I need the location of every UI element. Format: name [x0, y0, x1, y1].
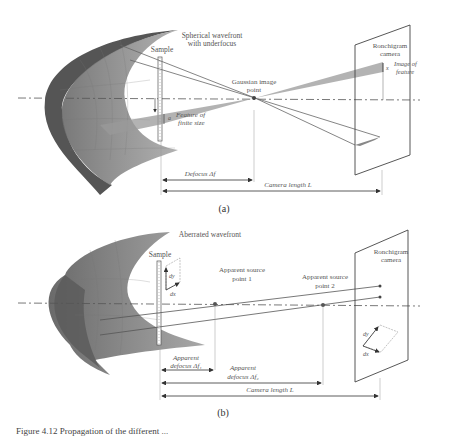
feature-label: Feature of [175, 111, 206, 119]
camera-length-label-a: Camera length L [264, 181, 312, 189]
svg-text:x: x [385, 65, 389, 71]
image-of-feature-label: Image of [393, 60, 418, 67]
svg-text:camera: camera [380, 50, 401, 58]
source-point-2-label: Apparent source [302, 273, 348, 281]
svg-text:dy: dy [169, 273, 175, 279]
svg-text:finite size: finite size [178, 119, 205, 127]
svg-text:defocus Δf₂: defocus Δf₂ [227, 373, 259, 381]
svg-text:a: a [168, 115, 171, 121]
svg-text:point 1: point 1 [232, 275, 252, 283]
apparent-defocus-2-label: Apparent [229, 364, 257, 372]
camera-label-b: Ronchigram [374, 248, 409, 256]
apparent-source-point-1 [213, 302, 217, 306]
wavefront-label-b: Aberrated wavefront [179, 230, 242, 239]
svg-text:camera: camera [381, 256, 402, 264]
svg-text:feature: feature [396, 68, 414, 75]
sample-label-b: Sample [149, 250, 172, 259]
source-point-1-label: Apparent source [219, 266, 265, 274]
apparent-source-point-2 [321, 303, 325, 307]
camera-length-label-b: Camera length L [246, 386, 294, 394]
gaussian-image-point [252, 96, 256, 100]
apparent-defocus-1-label: Apparent [172, 354, 200, 362]
sample-slab-b [157, 261, 161, 345]
svg-text:point: point [247, 86, 261, 94]
svg-text:point 2: point 2 [315, 282, 335, 290]
svg-text:defocus Δf₁: defocus Δf₁ [170, 362, 202, 370]
panel-a: Spherical wavefront with underfocus Samp… [18, 25, 420, 215]
camera-label-a: Ronchigram [373, 42, 408, 50]
sample-label-a: Sample [151, 45, 174, 54]
panel-b: Aberrated wavefront Sample dy dx Apparen… [18, 230, 420, 419]
figure-caption: Figure 4.12 Propagation of the different… [16, 426, 168, 437]
svg-text:dx: dx [170, 291, 176, 297]
svg-text:dx: dx [363, 351, 369, 357]
diagram-canvas: Spherical wavefront with underfocus Samp… [0, 0, 450, 437]
svg-text:with underfocus: with underfocus [188, 39, 237, 48]
panel-b-tag: (b) [217, 407, 229, 419]
defocus-label: Defocus Δf [184, 170, 217, 178]
svg-text:dy: dy [363, 331, 369, 337]
panel-a-tag: (a) [218, 203, 229, 215]
gaussian-image-label: Gaussian image [232, 78, 277, 86]
